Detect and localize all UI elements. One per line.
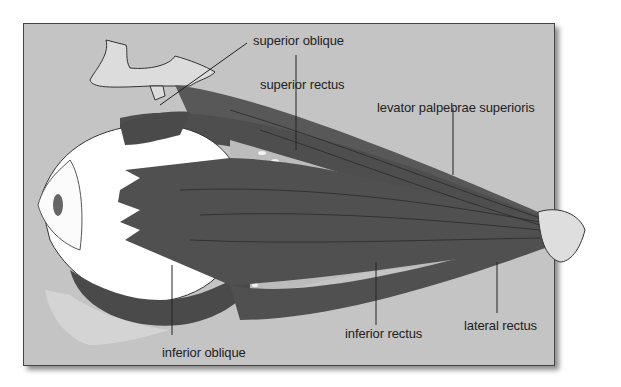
label-inferior-rectus: inferior rectus bbox=[345, 326, 422, 341]
iris bbox=[53, 194, 63, 216]
label-superior-rectus: superior rectus bbox=[260, 77, 344, 92]
label-lateral-rectus: lateral rectus bbox=[464, 318, 537, 333]
annulus-tendon bbox=[538, 210, 585, 262]
label-inferior-oblique: inferior oblique bbox=[162, 345, 246, 360]
label-levator-palpebrae: levator palpebrae superioris bbox=[377, 100, 535, 115]
trochlea-bone bbox=[90, 40, 215, 87]
label-superior-oblique: superior oblique bbox=[253, 33, 344, 48]
